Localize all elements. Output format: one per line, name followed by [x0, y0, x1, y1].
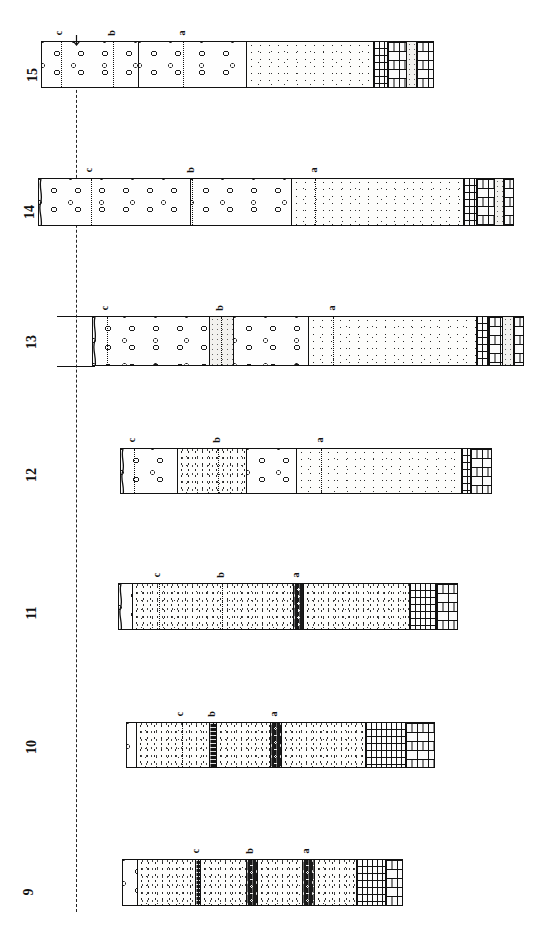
bed-10-bed-sandstone-1	[137, 723, 210, 767]
column-13	[92, 316, 524, 366]
section-label-9: 9	[22, 889, 36, 896]
section-label-11: 11	[25, 606, 39, 619]
marker-line-15-a	[183, 42, 184, 87]
bed-11-bed-limestone	[437, 584, 458, 629]
marker-line-12-a	[321, 449, 322, 493]
bed-10-bed-sandstone-2	[217, 723, 271, 767]
section-label-13: 13	[25, 335, 39, 349]
bed-9-bed-limestone	[386, 860, 403, 905]
marker-line-12-b	[218, 449, 219, 493]
column-11	[118, 583, 458, 630]
bed-14-bed-interbed	[464, 179, 477, 225]
bed-14-bed-limestone-1	[477, 179, 495, 225]
bed-9-bed-sandstone-4	[315, 860, 357, 905]
bed-11-bed-conglomerate	[119, 584, 133, 629]
bed-10-bed-limestone	[406, 723, 435, 767]
bed-12-bed-conglomerate-1	[121, 449, 178, 493]
marker-label-15-c: c	[54, 31, 64, 35]
marker-label-10-a: a	[269, 712, 279, 717]
marker-line-9-c	[198, 860, 199, 905]
column-14	[38, 178, 514, 226]
column-12	[120, 448, 492, 494]
bed-9-bed-shale-marker-b	[247, 860, 258, 905]
bed-10-bed-conglomerate	[127, 723, 137, 767]
erosional-contact-13	[92, 317, 97, 365]
marker-line-9-a	[307, 860, 308, 905]
section-15: 15cba	[0, 0, 538, 937]
marker-label-9-c: c	[191, 849, 201, 853]
bed-11-bed-sandstone-2	[304, 584, 410, 629]
datum-line	[76, 45, 77, 912]
marker-label-14-b: b	[186, 167, 196, 173]
section-10: 10cba	[0, 0, 538, 937]
marker-label-13-a: a	[327, 306, 337, 311]
marker-label-14-c: c	[84, 168, 94, 172]
bed-13-bed-sandstone	[309, 317, 477, 365]
marker-line-15-b	[113, 42, 114, 87]
bed-12-bed-sandstone-2	[297, 449, 462, 493]
marker-label-9-b: b	[245, 848, 255, 854]
marker-line-13-b	[221, 317, 222, 365]
bed-15-bed-sandstone	[247, 42, 374, 87]
bed-13-bed-silt-band	[210, 317, 234, 365]
column-15	[41, 41, 434, 88]
marker-line-11-b	[222, 584, 223, 629]
bed-9-bed-sandstone-1	[138, 860, 196, 905]
bed-15-bed-interbed	[374, 42, 388, 87]
marker-label-9-a: a	[301, 849, 311, 854]
erosional-contact-12	[120, 449, 125, 493]
marker-label-15-a: a	[177, 31, 187, 36]
bed-9-bed-sandstone-2	[201, 860, 247, 905]
bed-9-bed-sandstone-3	[258, 860, 303, 905]
bed-12-bed-interbed	[462, 449, 471, 493]
bed-9-bed-shale-marker-a	[303, 860, 315, 905]
column-10	[126, 722, 435, 768]
marker-line-10-c	[182, 723, 183, 767]
marker-line-9-b	[251, 860, 252, 905]
section-label-14: 14	[23, 205, 37, 219]
marker-label-11-a: a	[291, 573, 301, 578]
marker-line-15-c	[61, 42, 62, 87]
bed-10-bed-sandstone-3	[282, 723, 366, 767]
marker-line-12-c	[134, 449, 135, 493]
marker-label-15-b: b	[107, 30, 117, 36]
marker-label-13-b: b	[215, 305, 225, 311]
bed-12-bed-conglomerate-2	[247, 449, 297, 493]
bed-13-bed-conglomerate-2	[234, 317, 309, 365]
section-label-10: 10	[25, 740, 39, 754]
marker-line-11-a	[297, 584, 298, 629]
marker-line-14-b	[192, 179, 193, 225]
marker-line-13-c	[107, 317, 108, 365]
bed-14-bed-conglomerate-1	[39, 179, 191, 225]
section-11: 11cba	[0, 0, 538, 937]
erosional-contact-11	[118, 584, 123, 629]
bed-9-bed-shale-marker-c	[196, 860, 201, 905]
column-9	[122, 859, 403, 906]
section-label-15: 15	[26, 68, 40, 82]
bed-14-bed-silt	[495, 179, 504, 225]
bed-15-bed-conglomerate-2	[139, 42, 247, 87]
bed-10-bed-shale-marker-b	[210, 723, 217, 767]
bed-11-bed-interbed	[410, 584, 437, 629]
bed-13-bed-silt	[503, 317, 514, 365]
marker-line-10-b	[213, 723, 214, 767]
bed-15-bed-limestone-2	[417, 42, 434, 87]
marker-label-10-c: c	[175, 712, 185, 716]
bed-14-bed-sandstone	[292, 179, 464, 225]
bed-15-bed-silt	[407, 42, 417, 87]
section-label-12: 12	[25, 468, 39, 482]
bed-14-bed-limestone-2	[504, 179, 514, 225]
bed-12-bed-limestone	[471, 449, 492, 493]
marker-label-12-a: a	[315, 438, 325, 443]
marker-line-14-c	[91, 179, 92, 225]
bed-10-bed-shale-marker-a	[271, 723, 282, 767]
bed-9-bed-conglomerate	[123, 860, 138, 905]
bed-14-bed-conglomerate-2	[191, 179, 292, 225]
section-12: 12cba	[0, 0, 538, 937]
marker-line-11-c	[159, 584, 160, 629]
marker-label-12-c: c	[127, 438, 137, 442]
marker-label-12-b: b	[212, 437, 222, 443]
bed-13-bed-limestone-2	[514, 317, 524, 365]
bed-13-bed-limestone-1	[489, 317, 503, 365]
bed-11-bed-shale-marker-a	[294, 584, 304, 629]
